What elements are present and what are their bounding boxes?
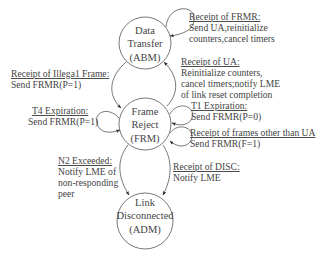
transition-action: Send FRMR(F=1) bbox=[190, 138, 260, 150]
transition-action: of link reset completion bbox=[181, 89, 273, 100]
transition-action: Notify LME of bbox=[58, 166, 117, 177]
transition-action: peer bbox=[58, 188, 75, 199]
state-label-line: (ABM) bbox=[130, 52, 161, 64]
transition-action: Send FRMR(P=1) bbox=[28, 116, 98, 128]
state-label-line: (FRM) bbox=[130, 133, 160, 145]
label-abm-to-frm: Receipt of Illega1 Frame: Send FRMR(P=1) bbox=[11, 68, 109, 91]
transition-title: T4 Expiration: bbox=[32, 105, 88, 116]
label-frm-to-abm: Receipt of UA: Reinitialize counters, ca… bbox=[181, 56, 280, 100]
state-label-line: (ADM) bbox=[129, 224, 161, 236]
transition-action: counters,cancel timers bbox=[189, 33, 275, 44]
transition-title: Receipt of Illega1 Frame: bbox=[11, 68, 109, 79]
edge-frm-self-other bbox=[170, 127, 192, 146]
label-frm-to-adm-n2: N2 Exceeded: Notify LME of non-respondin… bbox=[58, 155, 118, 199]
label-frm-self-t1: T1 Expiration: Send FRMR(P=0) bbox=[191, 100, 261, 123]
label-frm-self-other: Receipt of frames other than UA Send FRM… bbox=[190, 127, 316, 150]
transition-title: Receipt of FRMR: bbox=[189, 11, 260, 22]
edge-frm-self-t1 bbox=[170, 106, 193, 125]
transition-action: Send UA,reinitialize bbox=[189, 22, 268, 33]
state-frame-reject: Frame Reject (FRM) bbox=[119, 98, 171, 150]
transition-action: non-responding bbox=[58, 177, 118, 188]
label-abm-self: Receipt of FRMR: Send UA,reinitialize co… bbox=[189, 11, 275, 44]
transition-title: Receipt of DISC: bbox=[173, 161, 240, 172]
transition-title: N2 Exceeded: bbox=[58, 155, 112, 166]
transition-action: Notify LME bbox=[173, 172, 221, 183]
state-label-line: Reject bbox=[132, 119, 159, 130]
state-diagram: Data Transfer (ABM) Frame Reject (FRM) L… bbox=[0, 0, 326, 255]
transition-title: Receipt of frames other than UA bbox=[190, 127, 316, 138]
transition-title: T1 Expiration: bbox=[191, 100, 247, 111]
transition-action: Send FRMR(P=1) bbox=[11, 79, 81, 91]
edge-frm-to-abm bbox=[164, 62, 176, 106]
state-label-line: Transfer bbox=[127, 38, 163, 49]
state-data-transfer: Data Transfer (ABM) bbox=[119, 17, 171, 69]
edge-frm-to-adm-disc bbox=[163, 145, 170, 195]
transition-title: Receipt of UA: bbox=[181, 56, 240, 67]
transition-action: Reinitialize counters, bbox=[181, 67, 263, 78]
state-label-line: Link bbox=[135, 197, 156, 208]
label-frm-self-t4: T4 Expiration: Send FRMR(P=1) bbox=[28, 105, 98, 128]
state-link-disconnected: Link Disconnected (ADM) bbox=[116, 193, 174, 249]
edge-frm-self-t4 bbox=[97, 111, 120, 132]
label-frm-to-adm-disc: Receipt of DISC: Notify LME bbox=[173, 161, 240, 183]
edge-abm-to-frm bbox=[112, 62, 126, 108]
transition-action: cancel timers;notify LME bbox=[181, 78, 280, 89]
edge-frm-to-adm-n2 bbox=[120, 145, 129, 195]
state-label-line: Disconnected bbox=[116, 210, 174, 221]
transition-action: Send FRMR(P=0) bbox=[191, 111, 261, 123]
state-label-line: Data bbox=[135, 25, 155, 36]
state-label-line: Frame bbox=[132, 106, 159, 117]
